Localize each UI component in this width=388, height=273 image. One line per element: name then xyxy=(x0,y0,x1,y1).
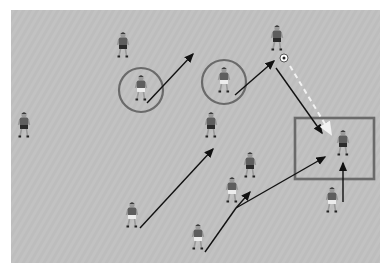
soccer-drill-canvas xyxy=(0,0,388,273)
pitch-field xyxy=(11,10,380,263)
drill-diagram xyxy=(0,0,388,273)
pitch-surface xyxy=(11,10,380,263)
soccer-ball-icon xyxy=(280,54,288,62)
